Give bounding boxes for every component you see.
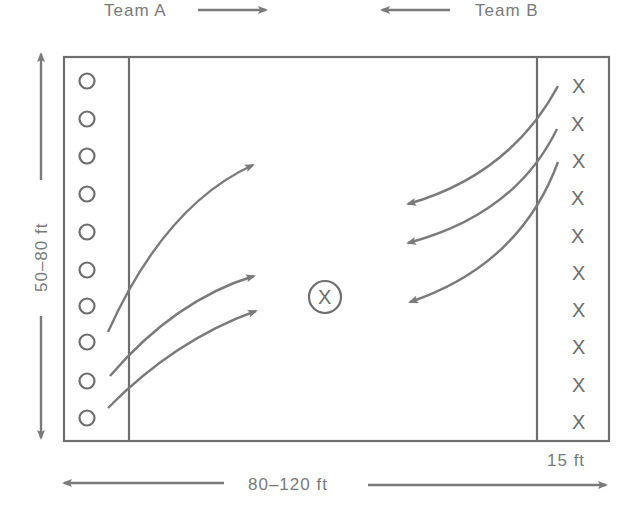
team-a-label: Team A (104, 1, 167, 20)
team-b-player: X (572, 336, 585, 358)
team-b-player: X (571, 225, 584, 247)
height-label: 50–80 ft (32, 223, 51, 292)
team-a-player (80, 335, 95, 350)
team-a-player (80, 374, 95, 389)
field-boundary (64, 57, 609, 441)
team-b-player: X (572, 150, 585, 172)
width-label: 80–120 ft (248, 475, 328, 494)
team-a-player (80, 263, 95, 278)
team-a-player (80, 74, 95, 89)
center-x-icon: X (318, 286, 331, 308)
team-a-player (80, 411, 95, 426)
team-b-players: X X X X X X X X X X (571, 75, 585, 433)
center-player: X (309, 281, 341, 313)
team-b-player: X (571, 187, 584, 209)
team-a-player (80, 299, 95, 314)
team-b-label: Team B (475, 1, 539, 20)
team-b-player: X (571, 113, 584, 135)
team-b-player: X (572, 299, 585, 321)
team-b-player: X (572, 75, 585, 97)
zone-width-label: 15 ft (547, 451, 585, 470)
team-a-player (80, 225, 95, 240)
team-b-player: X (572, 262, 585, 284)
field-diagram: Team A Team B 50–80 ft 80–120 ft 15 ft X… (0, 0, 632, 513)
team-b-attack-arrow-icon (408, 129, 557, 243)
team-a-players (80, 74, 95, 426)
team-a-attack-arrow-icon (110, 276, 254, 376)
team-b-player: X (572, 411, 585, 433)
team-a-player (80, 187, 95, 202)
team-a-attack-arrow-icon (108, 311, 256, 408)
team-b-attack-arrow-icon (408, 86, 558, 204)
team-a-player (80, 149, 95, 164)
team-a-player (80, 112, 95, 127)
team-b-player: X (572, 374, 585, 396)
team-b-attack-arrow-icon (410, 162, 558, 302)
